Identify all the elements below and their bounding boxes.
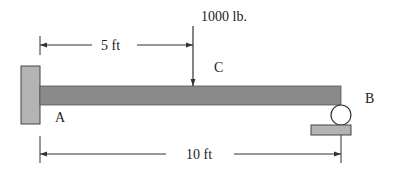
roller-icon [331, 105, 351, 125]
point-c-label: C [214, 60, 223, 75]
point-b-label: B [365, 91, 374, 106]
roller-base-plate [311, 125, 351, 135]
beam-diagram: 1000 lb. C A B 5 ft 10 ft [0, 0, 396, 171]
load-label: 1000 lb. [201, 9, 247, 24]
fixed-wall-support [21, 66, 40, 124]
roller-support [311, 105, 351, 135]
top-dimension-label: 5 ft [101, 38, 120, 53]
bottom-dimension-label: 10 ft [186, 147, 212, 162]
point-a-label: A [55, 110, 66, 125]
beam [40, 86, 341, 105]
